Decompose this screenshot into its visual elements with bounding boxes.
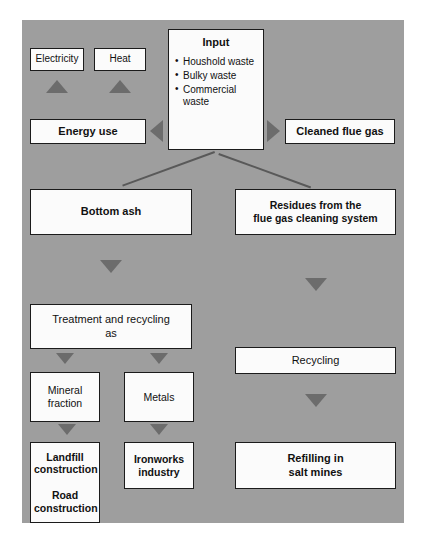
- node-landfill-line4: construction: [34, 502, 98, 514]
- node-refilling-salt-mines[interactable]: Refilling in salt mines: [235, 442, 396, 489]
- node-residues-line2: flue gas cleaning system: [253, 212, 377, 224]
- node-recycling-label: Recycling: [236, 354, 395, 367]
- node-heat[interactable]: Heat: [94, 48, 146, 71]
- diagram-panel: Electricity Heat Energy use Input Housho…: [22, 20, 404, 523]
- node-landfill-line1: Landfill: [46, 451, 83, 463]
- node-treatment-line1: Treatment and recycling: [52, 313, 170, 325]
- connector-line-right: [218, 153, 311, 188]
- arrow-up-icon-to-electricity: [46, 80, 68, 93]
- list-item: Commercial waste: [175, 84, 261, 108]
- node-metals-label: Metals: [125, 391, 193, 404]
- node-heat-label: Heat: [95, 53, 145, 65]
- arrow-down-icon-recycling-to-refilling: [305, 394, 327, 407]
- node-treatment-line2: as: [105, 327, 117, 339]
- node-residues[interactable]: Residues from the flue gas cleaning syst…: [235, 189, 396, 235]
- node-landfill-road-construction[interactable]: Landfill construction Road construction: [30, 442, 100, 523]
- node-energy-use[interactable]: Energy use: [30, 119, 146, 144]
- node-input[interactable]: Input Houshold waste Bulky waste Commerc…: [168, 29, 264, 150]
- diagram-canvas: Electricity Heat Energy use Input Housho…: [0, 0, 425, 552]
- node-residues-line1: Residues from the: [270, 199, 362, 211]
- arrow-down-icon-mineral-to-landfill: [58, 424, 76, 435]
- node-cleaned-flue-gas[interactable]: Cleaned flue gas: [285, 119, 395, 144]
- arrow-left-icon-to-energy-use: [150, 120, 163, 142]
- node-landfill-line2: construction: [34, 463, 98, 475]
- node-cleaned-flue-gas-label: Cleaned flue gas: [286, 125, 394, 138]
- list-item: Houshold waste: [175, 56, 261, 68]
- node-metals[interactable]: Metals: [124, 372, 194, 422]
- node-energy-use-label: Energy use: [31, 125, 145, 138]
- node-treatment[interactable]: Treatment and recycling as: [30, 304, 192, 349]
- node-mineral-fraction[interactable]: Mineral fraction: [30, 372, 100, 422]
- node-ironworks-line2: industry: [138, 466, 179, 478]
- arrow-right-icon-to-cleaned-flue-gas: [267, 120, 280, 142]
- node-refilling-line1: Refilling in: [287, 452, 343, 464]
- node-recycling[interactable]: Recycling: [235, 347, 396, 374]
- node-input-title: Input: [169, 36, 263, 49]
- list-item: Bulky waste: [175, 70, 261, 82]
- arrow-down-icon-bottom-ash-to-treatment: [100, 260, 122, 273]
- arrow-down-icon-treatment-to-metals: [150, 353, 168, 364]
- arrow-down-icon-treatment-to-mineral: [56, 353, 74, 364]
- connector-line-left: [122, 151, 215, 186]
- node-input-list: Houshold waste Bulky waste Commercial wa…: [169, 56, 263, 107]
- node-electricity-label: Electricity: [31, 53, 83, 65]
- arrow-down-icon-metals-to-ironworks: [150, 424, 168, 435]
- node-mineral-line1: Mineral: [48, 384, 82, 396]
- node-bottom-ash-label: Bottom ash: [31, 205, 191, 218]
- node-bottom-ash[interactable]: Bottom ash: [30, 189, 192, 235]
- node-ironworks-industry[interactable]: Ironworks industry: [124, 442, 194, 489]
- node-electricity[interactable]: Electricity: [30, 48, 84, 71]
- node-mineral-line2: fraction: [48, 397, 82, 409]
- node-ironworks-line1: Ironworks: [134, 453, 184, 465]
- arrow-down-icon-residues-to-recycling: [305, 278, 327, 291]
- node-landfill-line3: Road: [52, 489, 78, 501]
- arrow-up-icon-to-heat: [109, 80, 131, 93]
- node-refilling-line2: salt mines: [289, 466, 343, 478]
